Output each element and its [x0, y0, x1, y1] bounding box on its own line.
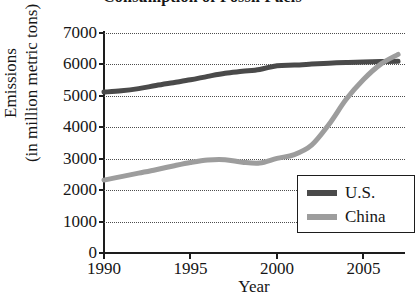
x-tick-label: 1990	[74, 259, 134, 278]
x-tick-mark	[276, 252, 278, 259]
x-tick-mark	[103, 252, 105, 259]
legend-swatch	[307, 214, 337, 220]
chart-legend: U.S.China	[297, 175, 415, 233]
y-axis-label: Emissions (in million metric tons)	[0, 0, 46, 183]
chart-title: Consumption of Fossil Fuels	[0, 0, 405, 7]
series-line-china	[104, 54, 398, 180]
y-axis-label-line1: Emissions	[0, 0, 21, 183]
x-tick-mark	[189, 252, 191, 259]
y-tick-label: 5000	[63, 87, 97, 104]
y-tick-label: 1000	[63, 213, 97, 230]
x-tick-label: 2005	[333, 259, 393, 278]
legend-item[interactable]: China	[307, 206, 415, 228]
y-tick-label: 6000	[63, 55, 97, 72]
y-tick-label: 4000	[63, 118, 97, 135]
legend-swatch	[307, 190, 337, 196]
x-tick-label: 1995	[160, 259, 220, 278]
x-tick-mark	[362, 252, 364, 259]
y-tick-label: 3000	[63, 150, 97, 167]
y-axis-label-line2: (in million metric tons)	[21, 0, 42, 183]
x-tick-label: 2000	[247, 259, 307, 278]
legend-label: China	[345, 206, 386, 228]
y-tick-label: 7000	[63, 24, 97, 41]
y-tick-label: 2000	[63, 181, 97, 198]
legend-item[interactable]: U.S.	[307, 182, 415, 204]
legend-label: U.S.	[345, 182, 375, 204]
x-axis-label: Year	[104, 277, 404, 297]
